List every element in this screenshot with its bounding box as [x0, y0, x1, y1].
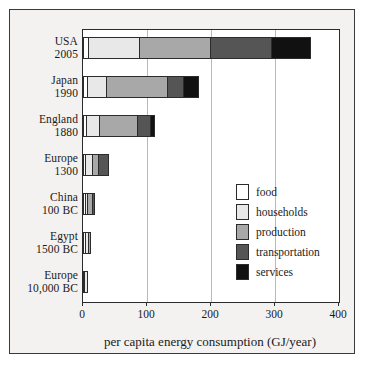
y-axis-label-place: England	[39, 113, 78, 125]
bar-segment-services[interactable]	[151, 116, 155, 136]
y-axis-label-date: 1300	[4, 165, 78, 178]
y-axis-label-date: 1880	[4, 126, 78, 139]
legend-label: production	[256, 226, 306, 238]
y-axis-label-place: Japan	[51, 74, 78, 86]
legend-label: services	[256, 266, 293, 278]
legend-label: households	[256, 206, 308, 218]
bar-row	[83, 115, 339, 137]
y-axis-label-date: 2005	[4, 48, 78, 61]
legend-item[interactable]: transportation	[236, 242, 320, 262]
legend-swatch-households	[236, 204, 249, 220]
y-axis-label: England1880	[4, 113, 78, 138]
bar-segment-services[interactable]	[184, 77, 198, 97]
bar-segment-households[interactable]	[88, 77, 108, 97]
y-axis-label: Europe10,000 BC	[4, 269, 78, 294]
x-axis-tick	[210, 302, 211, 306]
x-axis-tick-label: 0	[79, 308, 85, 320]
legend-swatch-services	[236, 264, 249, 280]
stacked-bar[interactable]	[83, 76, 199, 98]
legend-label: transportation	[256, 246, 320, 258]
stacked-bar[interactable]	[83, 154, 109, 176]
legend-swatch-food	[236, 184, 249, 200]
y-axis-label: Europe1300	[4, 152, 78, 177]
x-axis-tick	[338, 302, 339, 306]
x-axis-title: per capita energy consumption (GJ/year)	[82, 334, 338, 350]
y-axis-label-place: Europe	[44, 152, 78, 164]
bar-segment-production[interactable]	[89, 233, 90, 253]
y-axis-label-date: 10,000 BC	[4, 282, 78, 295]
x-axis-tick	[146, 302, 147, 306]
legend-item[interactable]: services	[236, 262, 320, 282]
legend-item[interactable]: households	[236, 202, 320, 222]
stacked-bar[interactable]	[83, 232, 91, 254]
bar-segment-transportation[interactable]	[138, 116, 150, 136]
bar-segment-households[interactable]	[89, 38, 140, 58]
legend-swatch-production	[236, 224, 249, 240]
chart-legend: foodhouseholdsproductiontransportationse…	[236, 182, 320, 282]
y-axis-label-place: Egypt	[50, 230, 78, 242]
bar-segment-transportation[interactable]	[93, 194, 94, 214]
bar-segment-transportation[interactable]	[99, 155, 108, 175]
y-axis-label-date: 1500 BC	[4, 243, 78, 256]
bar-segment-services[interactable]	[272, 38, 309, 58]
x-axis-tick-label: 100	[137, 308, 154, 320]
bar-segment-households[interactable]	[85, 272, 87, 292]
bar-segment-transportation[interactable]	[168, 77, 184, 97]
legend-label: food	[256, 186, 277, 198]
x-axis-tick	[274, 302, 275, 306]
bar-segment-production[interactable]	[100, 116, 138, 136]
x-axis-tick-label: 200	[201, 308, 218, 320]
x-axis-tick-label: 300	[265, 308, 282, 320]
y-axis-label: China100 BC	[4, 191, 78, 216]
stacked-bar[interactable]	[83, 193, 95, 215]
figure: USA2005Japan1990England1880Europe1300Chi…	[0, 0, 366, 365]
x-axis-tick-label: 400	[329, 308, 346, 320]
y-axis-label-date: 100 BC	[4, 204, 78, 217]
y-axis-label: USA2005	[4, 35, 78, 60]
stacked-bar[interactable]	[83, 115, 155, 137]
y-axis-label-place: Europe	[44, 269, 78, 281]
bar-row	[83, 37, 339, 59]
y-axis-label-place: China	[50, 191, 78, 203]
bar-segment-production[interactable]	[140, 38, 211, 58]
bar-segment-transportation[interactable]	[211, 38, 273, 58]
stacked-bar[interactable]	[83, 271, 88, 293]
x-axis-tick	[82, 302, 83, 306]
bar-row	[83, 154, 339, 176]
y-axis-label: Egypt1500 BC	[4, 230, 78, 255]
legend-item[interactable]: production	[236, 222, 320, 242]
y-axis-label: Japan1990	[4, 74, 78, 99]
bar-segment-production[interactable]	[107, 77, 168, 97]
legend-item[interactable]: food	[236, 182, 320, 202]
legend-swatch-transportation	[236, 244, 249, 260]
y-axis-label-place: USA	[55, 35, 78, 47]
bar-segment-households[interactable]	[87, 116, 100, 136]
y-axis-label-date: 1990	[4, 87, 78, 100]
stacked-bar[interactable]	[83, 37, 311, 59]
bar-row	[83, 76, 339, 98]
